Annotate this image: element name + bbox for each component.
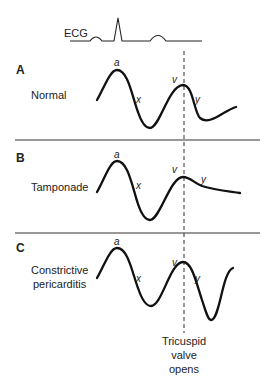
condition-label: pericarditis [33,278,87,290]
note-line: opens [169,363,199,375]
condition-label: Tamponade [31,181,89,193]
jvp-curve-tamponade [97,161,240,220]
wave-label-v: v [172,164,178,175]
wave-label-v: v [172,74,178,85]
panel-letter: B [16,151,25,165]
wave-label-y: y [194,94,201,105]
panel-constrictive-pericarditis: C Constrictive pericarditis a x v y [16,236,233,320]
wave-label-x: x [135,180,142,191]
ecg-label: ECG [64,27,88,39]
wave-label-a: a [114,57,120,68]
panel-letter: C [16,241,25,255]
wave-label-a: a [114,236,120,247]
jvp-curve-constrictive [97,248,233,320]
wave-label-y: y [200,174,207,185]
condition-label: Constrictive [31,264,88,276]
ecg-strip: ECG [64,18,202,41]
wave-label-x: x [135,94,142,105]
jugular-venous-pulse-diagram: ECG A Normal a x v y B Tamponade a x v y… [0,0,269,382]
tricuspid-note: Tricuspid valve opens [162,335,206,375]
wave-label-y: y [194,273,201,284]
wave-label-x: x [135,273,142,284]
panel-tamponade: B Tamponade a x v y [16,149,240,220]
panel-normal: A Normal a x v y [16,57,236,128]
ecg-trace [70,18,202,41]
panel-letter: A [16,63,25,77]
note-line: Tricuspid [162,335,206,347]
note-line: valve [171,349,197,361]
jvp-curve-normal [97,70,236,128]
condition-label: Normal [31,89,66,101]
wave-label-a: a [114,149,120,160]
